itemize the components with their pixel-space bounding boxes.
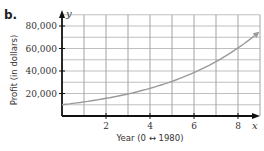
profit-chart: 246820,00040,00060,00080,000 Profit (in … <box>0 0 264 151</box>
x-tick-label: 4 <box>147 121 153 131</box>
profit-curve <box>62 33 258 105</box>
x-axis-arrow-icon <box>252 113 260 119</box>
y-tick-label: 60,000 <box>26 44 58 54</box>
y-tick-label: 20,000 <box>26 89 58 99</box>
y-axis-arrow-icon <box>59 10 65 18</box>
x-tick-label: 2 <box>103 121 109 131</box>
y-axis-title: Profit (in dollars) <box>9 35 19 105</box>
y-axis-variable: y <box>65 8 72 19</box>
x-tick-label: 6 <box>191 121 197 131</box>
x-axis-variable: x <box>252 120 258 131</box>
x-axis-title: Year (0 ↔ 1980) <box>116 133 184 143</box>
x-tick-label: 8 <box>235 121 241 131</box>
y-tick-label: 80,000 <box>26 21 58 31</box>
y-tick-label: 40,000 <box>26 66 58 76</box>
